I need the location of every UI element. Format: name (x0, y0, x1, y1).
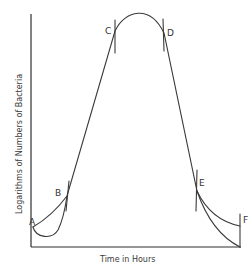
point-e-tick (196, 170, 197, 211)
decline-phase-alt-curve (197, 191, 240, 226)
point-d-label: D (167, 28, 174, 38)
growth-curve-diagram: A B C D E F Time in Hours Logarithms of … (0, 0, 250, 270)
point-d-tick (163, 19, 164, 51)
point-c-label: C (105, 26, 111, 36)
y-axis-label: Logarithms of Numbers of Bacteria (15, 74, 24, 214)
x-axis-label: Time in Hours (99, 255, 155, 264)
point-b-label: B (55, 188, 61, 198)
point-f-label: F (243, 215, 248, 225)
point-e-label: E (199, 178, 205, 188)
point-a-label: A (29, 217, 36, 227)
